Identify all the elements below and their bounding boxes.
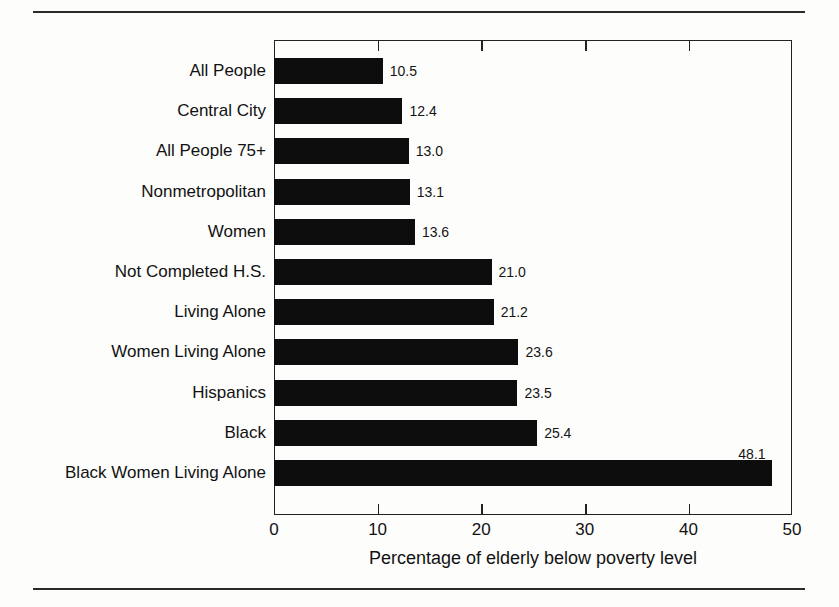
bar-row: 23.6 (274, 339, 792, 365)
x-tick-label-0: 0 (269, 519, 278, 541)
category-label: Women (0, 219, 266, 245)
category-label: All People (0, 58, 266, 84)
bar-value-label: 13.0 (409, 144, 443, 158)
x-tick-label-20: 20 (472, 519, 491, 541)
bar-row: 10.5 (274, 58, 792, 84)
x-tick-label-40: 40 (679, 519, 698, 541)
bar-value-label: 23.5 (517, 386, 551, 400)
bar-value-label: 21.0 (492, 265, 526, 279)
bar-row: 12.4 (274, 98, 792, 124)
category-label: Not Completed H.S. (0, 259, 266, 285)
bar (274, 460, 772, 486)
bar-value-label: 13.6 (415, 225, 449, 239)
category-label: Living Alone (0, 299, 266, 325)
x-tick-label-30: 30 (575, 519, 594, 541)
bar (274, 339, 518, 365)
bar (274, 179, 410, 205)
x-tick-label-10: 10 (368, 519, 387, 541)
bar-row: 48.1 (274, 460, 792, 486)
bar-value-label: 13.1 (410, 185, 444, 199)
bar-value-label: 48.1 (738, 447, 765, 461)
x-axis-title: Percentage of elderly below poverty leve… (274, 546, 792, 570)
top-divider-rule (33, 11, 805, 13)
bar-row: 23.5 (274, 380, 792, 406)
x-tick-label-50: 50 (783, 519, 802, 541)
bar (274, 299, 494, 325)
bar-value-label: 25.4 (537, 426, 571, 440)
bar-row: 13.1 (274, 179, 792, 205)
bar-row: 21.0 (274, 259, 792, 285)
category-label: All People 75+ (0, 138, 266, 164)
bar (274, 380, 517, 406)
bar (274, 98, 402, 124)
category-label: Hispanics (0, 380, 266, 406)
bar (274, 219, 415, 245)
category-axis-labels: All PeopleCentral CityAll People 75+Nonm… (0, 40, 266, 515)
category-label: Black (0, 420, 266, 446)
category-label: Black Women Living Alone (0, 460, 266, 486)
bar-row: 25.4 (274, 420, 792, 446)
category-label: Nonmetropolitan (0, 179, 266, 205)
bottom-divider-rule (33, 588, 805, 590)
bar (274, 420, 537, 446)
x-axis-tick-labels: 01020304050 (274, 519, 792, 543)
bar (274, 58, 383, 84)
category-label: Central City (0, 98, 266, 124)
bar (274, 138, 409, 164)
bar-value-label: 21.2 (494, 305, 528, 319)
category-label: Women Living Alone (0, 339, 266, 365)
bar-row: 13.6 (274, 219, 792, 245)
bar (274, 259, 492, 285)
bar-row: 13.0 (274, 138, 792, 164)
bar-value-label: 12.4 (402, 104, 436, 118)
bar-value-label: 23.6 (518, 345, 552, 359)
bar-row: 21.2 (274, 299, 792, 325)
bar-value-label: 10.5 (383, 64, 417, 78)
figure-canvas: All PeopleCentral CityAll People 75+Nonm… (0, 0, 839, 607)
bars-layer: 10.512.413.013.113.621.021.223.623.525.4… (274, 40, 792, 515)
